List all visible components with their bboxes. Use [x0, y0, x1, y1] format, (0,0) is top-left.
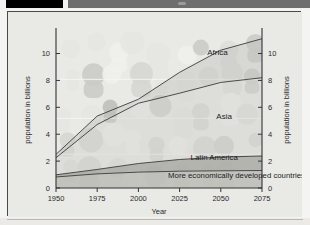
chart-plot-area: 00224466881010195019752000202520502075po…: [8, 12, 300, 215]
y-tick-label-left: 0: [46, 184, 50, 193]
y-tick-label-left: 10: [42, 49, 50, 58]
x-axis-title: Year: [151, 207, 167, 216]
chart-figure: 00224466881010195019752000202520502075po…: [7, 11, 301, 216]
y-tick-label-left: 6: [46, 103, 50, 112]
series-label-africa: Africa: [207, 48, 228, 57]
x-tick-label: 2050: [212, 194, 229, 203]
topbar-gray-block: [68, 0, 310, 8]
top-chrome-bar: [0, 0, 310, 9]
x-tick-label: 1975: [89, 194, 106, 203]
series-label-latin-america: Latin America: [191, 153, 239, 162]
screenshot-root: 00224466881010195019752000202520502075po…: [0, 0, 310, 225]
x-tick-label: 2000: [130, 194, 147, 203]
series-label-developed-countries: More economically developed countries: [168, 171, 302, 180]
x-tick-label: 1950: [48, 194, 65, 203]
y-tick-label-left: 8: [46, 76, 50, 85]
x-tick-label: 2025: [171, 194, 188, 203]
y-tick-label-left: 2: [46, 157, 50, 166]
x-tick-label: 2075: [254, 194, 271, 203]
y-tick-label-right: 8: [268, 76, 272, 85]
y-tick-label-right: 10: [268, 49, 276, 58]
y-axis-title-left: population in billions: [23, 76, 32, 144]
y-tick-label-right: 6: [268, 103, 272, 112]
bottom-strip: [0, 218, 310, 225]
topbar-highlight-dot: [178, 2, 186, 5]
topbar-black-block: [6, 0, 63, 8]
bottom-rule: [7, 219, 303, 220]
series-label-asia: Asia: [216, 112, 232, 121]
y-axis-title-right: population in billions: [282, 76, 291, 144]
y-tick-label-right: 0: [268, 184, 272, 193]
population-area-chart: 00224466881010195019752000202520502075po…: [8, 12, 302, 217]
y-tick-label-right: 4: [268, 130, 272, 139]
y-tick-label-left: 4: [46, 130, 50, 139]
y-tick-label-right: 2: [268, 157, 272, 166]
